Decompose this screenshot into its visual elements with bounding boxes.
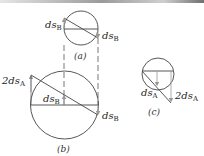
circle-c	[142, 58, 174, 90]
caption-a: (a)	[74, 51, 87, 61]
label-2dsA-c: 2dsA	[174, 90, 199, 103]
part-a: dsB dsB (a)	[45, 11, 119, 61]
label-dsB-right-b: dsB	[102, 110, 119, 123]
label-dsB-right-a: dsB	[102, 30, 119, 43]
label-dsA-c: dsA	[141, 87, 159, 100]
caption-b: (b)	[57, 144, 70, 154]
label-dsB-left-a: dsB	[45, 19, 62, 32]
part-c: dsA 2dsA (c)	[141, 58, 199, 117]
mohr-circle-diagram: dsB dsB (a) 2dsA dsB dsB (b) dsA 2dsA (c…	[0, 0, 204, 156]
part-b: 2dsA dsB dsB (b)	[1, 71, 119, 154]
diagonal-line-a	[64, 18, 98, 38]
caption-c: (c)	[148, 107, 161, 117]
label-2dsA-b: 2dsA	[1, 75, 26, 88]
label-dsB-center-b: dsB	[43, 93, 60, 106]
